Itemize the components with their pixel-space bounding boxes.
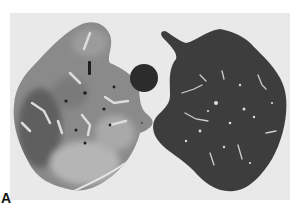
ct-image-frame (10, 13, 290, 200)
ct-scan-image (10, 13, 290, 200)
central-dark-circle (130, 64, 158, 92)
right-lung (153, 29, 286, 191)
panel-label: A (1, 191, 11, 205)
left-lung (10, 13, 160, 200)
